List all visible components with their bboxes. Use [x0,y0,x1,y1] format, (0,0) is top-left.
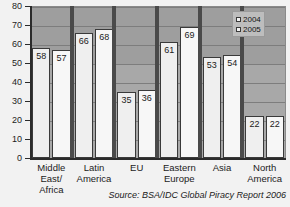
group-divider [70,6,74,158]
bar: 53 [203,57,221,158]
category-label-line: Latin [73,162,116,173]
y-tick-mark [25,120,30,121]
y-tick-label: 50 [0,59,22,68]
y-tick-label: 40 [0,78,22,87]
y-tick-label: 70 [0,21,22,30]
bar: 35 [117,92,135,159]
y-tick-label: 10 [0,135,22,144]
legend-item-2004: 2004 [236,14,261,24]
bar-value-label: 36 [139,93,155,103]
x-axis-category-label: NorthAmerica [243,162,286,184]
bar-value-label: 22 [246,119,262,129]
y-tick-label: 20 [0,116,22,125]
category-label-line: Eastern [158,162,201,173]
bar-value-label: 58 [33,51,49,61]
bar-value-label: 66 [76,36,92,46]
x-axis-category-label: Asia [201,162,244,173]
bar-value-label: 53 [204,60,220,70]
y-axis [30,6,32,159]
category-label-line: North [243,162,286,173]
legend: 2004 2005 [232,11,265,37]
legend-swatch-icon [236,27,241,32]
legend-item-label: 2005 [243,25,261,34]
bar-value-label: 35 [118,95,134,105]
y-tick-mark [25,139,30,140]
source-note: Source: BSA/IDC Global Piracy Report 200… [108,190,286,200]
bar: 57 [52,50,70,158]
category-label-line: EU [115,162,158,173]
x-axis [30,158,286,160]
bar: 66 [75,33,93,158]
category-label-line: America [243,173,286,184]
bar: 58 [32,48,50,158]
bar: 61 [160,42,178,158]
bar-chart: 585766683536616953542222 807060504030201… [0,0,290,207]
bar: 69 [180,27,198,158]
category-label-line: East/ [30,173,73,184]
bar: 54 [223,55,241,158]
bar-value-label: 22 [267,119,283,129]
bar-value-label: 57 [53,53,69,63]
y-tick-label: 30 [0,97,22,106]
category-label-line: America [73,173,116,184]
bar: 22 [266,116,284,158]
bar: 68 [95,29,113,158]
group-divider [155,6,159,158]
y-tick-mark [25,82,30,83]
x-axis-category-label: EU [115,162,158,173]
bar: 22 [245,116,263,158]
legend-item-label: 2004 [243,15,261,24]
legend-item-2005: 2005 [236,24,261,34]
y-tick-mark [25,63,30,64]
category-label-line: Middle [30,162,73,173]
bar-value-label: 61 [161,45,177,55]
y-tick-mark [25,25,30,26]
legend-swatch-icon [236,17,241,22]
bar-value-label: 69 [181,30,197,40]
y-tick-mark [25,44,30,45]
y-tick-label: 60 [0,40,22,49]
y-tick-mark [25,158,30,159]
x-axis-category-label: LatinAmerica [73,162,116,184]
bar-value-label: 68 [96,32,112,42]
category-label-line: Africa [30,184,73,195]
bar-value-label: 54 [224,58,240,68]
category-label-line: Asia [201,162,244,173]
group-divider [112,6,116,158]
y-tick-mark [25,6,30,7]
y-tick-label: 0 [0,154,22,163]
y-tick-label: 80 [0,2,22,11]
group-divider [198,6,202,158]
bar: 36 [138,90,156,158]
y-tick-mark [25,101,30,102]
x-axis-category-label: EasternEurope [158,162,201,184]
x-axis-category-label: MiddleEast/Africa [30,162,73,195]
category-label-line: Europe [158,173,201,184]
